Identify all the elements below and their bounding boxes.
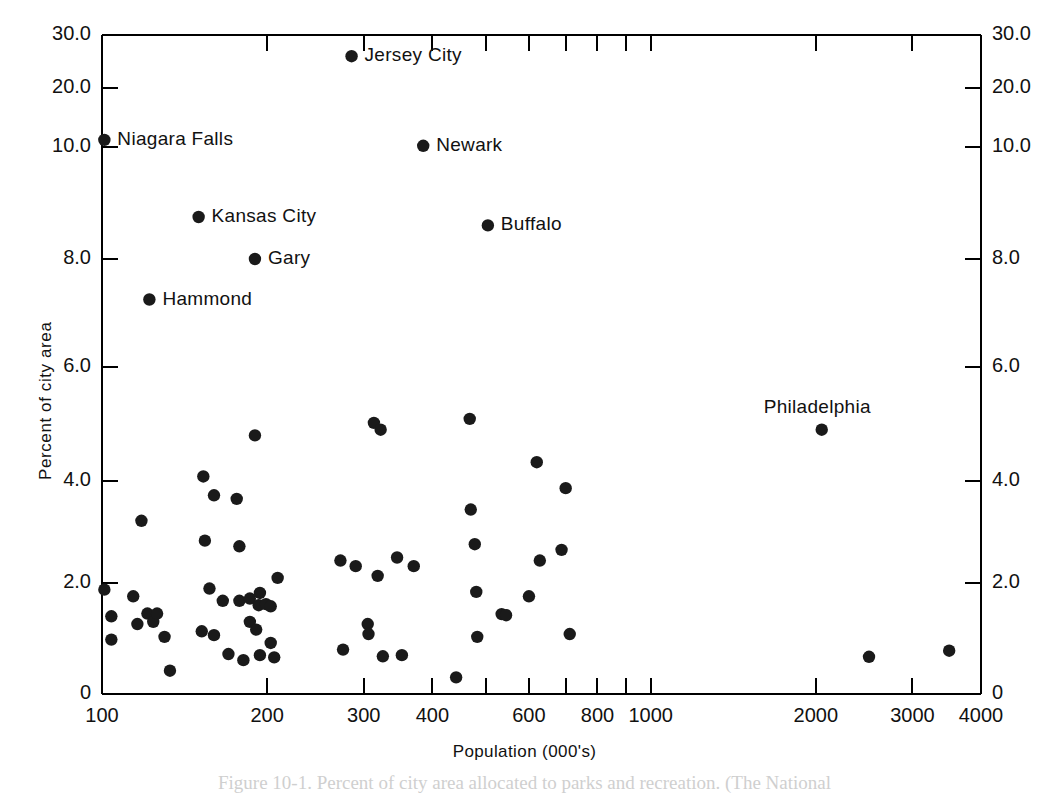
data-point	[98, 583, 110, 595]
data-point	[362, 628, 374, 640]
y-axis-tick-label-right: 20.0	[992, 75, 1031, 98]
data-point	[249, 429, 261, 441]
y-axis-tick-label: 2.0	[63, 570, 91, 593]
data-point	[268, 651, 280, 663]
x-axis-tick-label: 4000	[921, 704, 1041, 727]
y-axis-tick-label: 8.0	[63, 246, 91, 269]
y-axis-tick-label-right: 8.0	[992, 246, 1020, 269]
data-point	[265, 637, 277, 649]
data-point	[233, 540, 245, 552]
data-point-label: Niagara Falls	[117, 128, 233, 150]
data-point	[371, 570, 383, 582]
data-point	[943, 645, 955, 657]
labeled-data-point	[816, 424, 828, 436]
data-point	[471, 631, 483, 643]
data-point	[265, 600, 277, 612]
labeled-data-point	[417, 140, 429, 152]
x-axis-title: Population (000's)	[0, 742, 1049, 762]
data-point	[374, 424, 386, 436]
data-point-label: Kansas City	[212, 205, 317, 227]
figure-caption: Figure 10-1. Percent of city area alloca…	[0, 772, 1049, 794]
data-point-label: Hammond	[162, 288, 252, 310]
y-axis-title: Percent of city area	[36, 322, 56, 480]
axis-ticks	[102, 35, 981, 694]
x-axis-tick-label: 1000	[591, 704, 711, 727]
data-point	[559, 482, 571, 494]
y-axis-tick-label-right: 0	[992, 681, 1003, 704]
data-point	[271, 572, 283, 584]
data-point	[217, 595, 229, 607]
y-axis-tick-label: 30.0	[52, 22, 91, 45]
data-point	[208, 629, 220, 641]
y-axis-tick-label-right: 4.0	[992, 468, 1020, 491]
data-point	[250, 623, 262, 635]
plot-frame	[102, 35, 981, 694]
data-point	[131, 618, 143, 630]
x-axis-tick-label: 100	[42, 704, 162, 727]
data-point	[450, 671, 462, 683]
labeled-data-point	[345, 50, 357, 62]
data-point	[523, 590, 535, 602]
labeled-data-point	[98, 134, 110, 146]
y-axis-tick-label-right: 6.0	[992, 354, 1020, 377]
data-point	[470, 586, 482, 598]
data-point	[164, 664, 176, 676]
data-point	[464, 413, 476, 425]
data-point-label: Jersey City	[365, 44, 462, 66]
data-point	[500, 609, 512, 621]
data-point	[127, 590, 139, 602]
data-point	[465, 503, 477, 515]
data-point	[222, 648, 234, 660]
y-axis-tick-label: 10.0	[52, 134, 91, 157]
data-point-label: Gary	[268, 247, 310, 269]
data-point-label: Philadelphia	[764, 396, 871, 418]
y-axis-tick-label: 4.0	[63, 468, 91, 491]
data-point	[203, 582, 215, 594]
data-point	[197, 470, 209, 482]
data-point	[408, 560, 420, 572]
data-point	[208, 489, 220, 501]
data-point	[350, 560, 362, 572]
y-axis-tick-label-right: 30.0	[992, 22, 1031, 45]
data-point	[863, 651, 875, 663]
data-point	[199, 534, 211, 546]
data-point-label: Newark	[436, 134, 502, 156]
data-point	[564, 628, 576, 640]
labeled-data-point	[192, 211, 204, 223]
data-point	[231, 493, 243, 505]
data-point	[334, 554, 346, 566]
data-point	[396, 649, 408, 661]
data-point	[531, 456, 543, 468]
data-point	[391, 551, 403, 563]
data-point	[237, 654, 249, 666]
y-axis-tick-label: 20.0	[52, 75, 91, 98]
data-point-label: Buffalo	[501, 213, 562, 235]
data-point	[469, 538, 481, 550]
data-point	[158, 631, 170, 643]
data-point	[105, 633, 117, 645]
y-axis-tick-label-right: 10.0	[992, 134, 1031, 157]
data-point	[337, 643, 349, 655]
data-point	[534, 554, 546, 566]
y-axis-tick-label: 6.0	[63, 354, 91, 377]
data-point	[254, 587, 266, 599]
labeled-data-point	[249, 253, 261, 265]
data-point	[135, 515, 147, 527]
labeled-data-point	[482, 219, 494, 231]
data-point	[105, 610, 117, 622]
data-point	[254, 649, 266, 661]
data-point	[377, 650, 389, 662]
data-point	[233, 595, 245, 607]
data-point	[555, 544, 567, 556]
data-point	[196, 625, 208, 637]
data-point	[151, 607, 163, 619]
y-axis-tick-label: 0	[80, 681, 91, 704]
y-axis-tick-label-right: 2.0	[992, 570, 1020, 593]
labeled-data-point	[143, 293, 155, 305]
